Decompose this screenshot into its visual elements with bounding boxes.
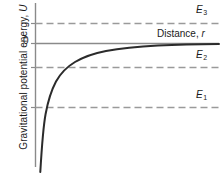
x-axis-label: Distance, r xyxy=(157,29,205,39)
e2-base: E xyxy=(196,49,203,60)
e3-subscript: 3 xyxy=(203,9,207,16)
energy-level-label-e2: E2 xyxy=(196,50,207,60)
e2-subscript: 2 xyxy=(203,54,207,61)
energy-level-label-e3: E3 xyxy=(196,5,207,15)
gravitational-potential-energy-figure: Gravitational potential energy, U 0 Dist… xyxy=(0,0,223,173)
e1-base: E xyxy=(196,89,203,100)
y-axis-label-text: Gravitational potential energy, xyxy=(18,12,29,150)
y-axis-label-symbol: U xyxy=(18,4,29,11)
x-axis-label-symbol: r xyxy=(201,28,204,39)
zero-tick-label: 0 xyxy=(23,36,29,46)
x-axis-label-text: Distance, xyxy=(157,28,201,39)
y-axis-label: Gravitational potential energy, U xyxy=(19,0,29,157)
e3-base: E xyxy=(196,4,203,15)
e1-subscript: 1 xyxy=(203,94,207,101)
energy-level-label-e1: E1 xyxy=(196,90,207,100)
plot-area xyxy=(0,0,223,173)
